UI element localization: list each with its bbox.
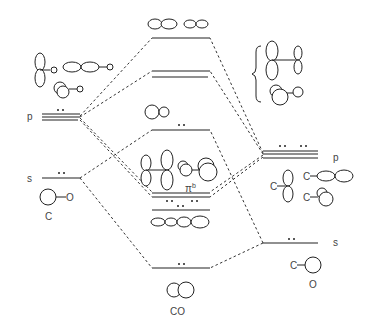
co-mo-diagram: p s O C — [0, 0, 375, 332]
oxygen-px-orbital-icon: C — [303, 170, 353, 182]
brace-icon — [252, 46, 261, 102]
carbon-pz-orbital-icon — [35, 53, 57, 87]
carbon-s-label: s — [27, 173, 32, 184]
oxygen-py-orbital-icon: C — [303, 188, 333, 206]
sigma5-orbital-icon — [145, 105, 169, 119]
carbon-px-orbital-icon — [63, 62, 113, 72]
carbon-s-orbital-icon — [40, 189, 56, 205]
carbon-levels: p s O C — [27, 53, 113, 222]
oxygen-label: O — [309, 279, 317, 290]
oxygen-s-label: s — [333, 237, 338, 248]
svg-text:O: O — [66, 192, 74, 203]
carbon-label: C — [45, 211, 52, 222]
pi-bonding-orbital-icon-2 — [178, 158, 217, 181]
svg-text:C: C — [270, 181, 277, 192]
oxygen-levels: p C C C s C O — [252, 41, 353, 290]
sigma-star-orbital-icon — [148, 19, 208, 29]
pi-star-orbital-icon-2 — [270, 85, 303, 105]
co-levels: πb CO — [141, 19, 217, 317]
sigma4-orbital-icon — [151, 216, 209, 228]
pi-bonding-orbital-icon-1 — [141, 150, 173, 190]
carbon-py-orbital-icon — [54, 82, 83, 98]
svg-text:C: C — [303, 171, 310, 182]
sigma3-orbital-icon — [167, 282, 194, 298]
svg-text:C: C — [303, 192, 310, 203]
pi-bonding-label: πb — [185, 182, 196, 194]
co-label: CO — [170, 306, 185, 317]
oxygen-pz-orbital-icon: C — [270, 170, 293, 202]
svg-text:C: C — [290, 260, 297, 271]
carbon-p-label: p — [27, 111, 33, 122]
pi-star-orbital-icon-1 — [266, 41, 302, 80]
oxygen-p-label: p — [333, 152, 339, 163]
oxygen-s-orbital-icon — [305, 257, 321, 273]
